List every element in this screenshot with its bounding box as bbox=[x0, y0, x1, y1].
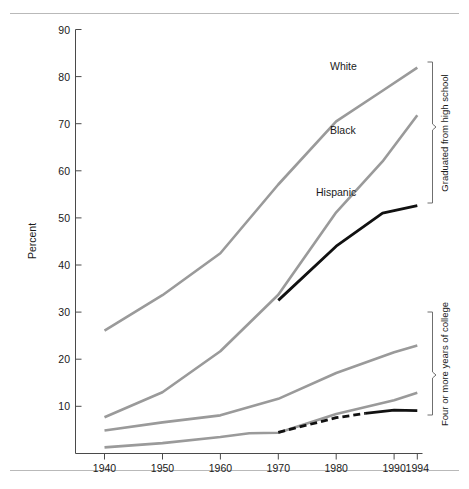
series-label-black: Black bbox=[330, 124, 356, 136]
series-label-hispanic: Hispanic bbox=[316, 186, 356, 198]
y-axis-tick-labels: 90 80 70 60 50 40 30 20 10 bbox=[58, 24, 70, 413]
x-axis-ticks bbox=[105, 454, 418, 460]
y-tick-label: 20 bbox=[58, 353, 70, 365]
y-tick-label: 10 bbox=[58, 400, 70, 412]
series-line-white-college bbox=[105, 346, 418, 431]
series-label-white: White bbox=[330, 60, 357, 72]
bracket-college bbox=[428, 312, 437, 415]
group-label-high-school: Graduated from high school bbox=[439, 74, 450, 191]
series-line-hispanic-high-school bbox=[278, 206, 417, 301]
series-line-black-college bbox=[105, 393, 418, 448]
chart-figure: 90 80 70 60 50 40 30 20 10 Percent 1940 … bbox=[0, 0, 469, 489]
series-line-white-high-school bbox=[105, 68, 418, 331]
x-tick-label: 1990 bbox=[382, 462, 406, 474]
x-tick-label: 1980 bbox=[325, 462, 349, 474]
series-paths bbox=[105, 68, 418, 448]
y-tick-label: 60 bbox=[58, 165, 70, 177]
group-label-college: Four or more years of college bbox=[439, 302, 450, 426]
y-tick-label: 50 bbox=[58, 212, 70, 224]
x-tick-label: 1970 bbox=[267, 462, 291, 474]
series-line-hispanic-college-dashed bbox=[278, 413, 365, 432]
x-tick-label: 1960 bbox=[209, 462, 233, 474]
series-line-black-high-school bbox=[105, 115, 418, 417]
line-chart-svg: 90 80 70 60 50 40 30 20 10 Percent 1940 … bbox=[0, 0, 469, 489]
y-tick-label: 30 bbox=[58, 306, 70, 318]
y-tick-label: 90 bbox=[58, 24, 70, 36]
x-tick-label: 1950 bbox=[151, 462, 175, 474]
x-tick-label: 1994 bbox=[406, 462, 430, 474]
bracket-high-school bbox=[428, 62, 437, 203]
y-tick-label: 80 bbox=[58, 71, 70, 83]
x-axis-tick-labels: 1940 1950 1960 1970 1980 1990 1994 bbox=[93, 462, 429, 474]
x-tick-label: 1940 bbox=[93, 462, 117, 474]
y-axis-ticks bbox=[76, 30, 82, 407]
y-axis-title: Percent bbox=[26, 223, 38, 259]
y-tick-label: 40 bbox=[58, 259, 70, 271]
y-tick-label: 70 bbox=[58, 118, 70, 130]
series-line-hispanic-college-solid bbox=[365, 410, 417, 413]
